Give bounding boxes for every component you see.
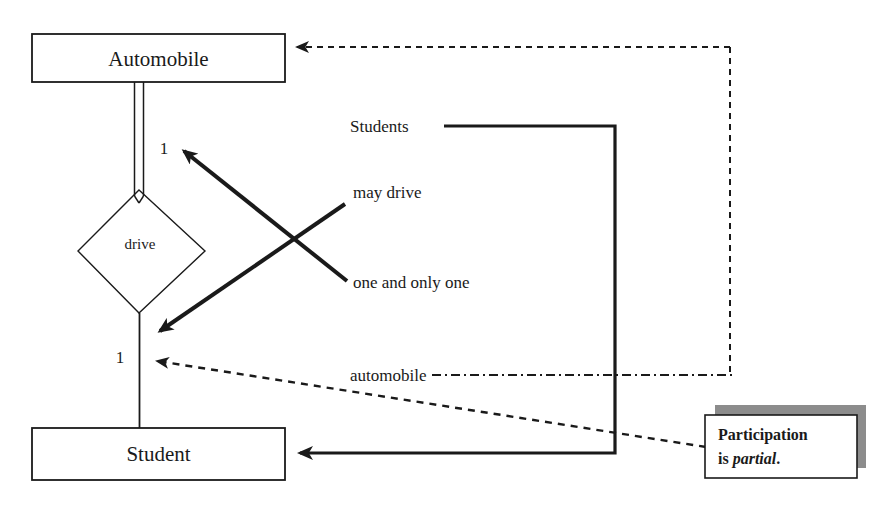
annotation-automobile-label: automobile bbox=[350, 366, 426, 385]
callout-line2-suffix: . bbox=[776, 450, 780, 467]
connector-automobile-drive bbox=[135, 82, 144, 203]
annotation-one-and-only-one-label: one and only one bbox=[353, 273, 470, 292]
callout-participation-line2: is partial. bbox=[718, 450, 780, 468]
callout-line2-prefix: is bbox=[718, 450, 733, 467]
relationship-drive[interactable]: drive bbox=[78, 190, 205, 313]
entity-student-label: Student bbox=[126, 442, 190, 466]
callout-participation-line1: Participation bbox=[718, 426, 808, 444]
er-diagram-canvas: Automobile Student drive 1 1 bbox=[0, 0, 888, 510]
annotation-may-drive-label: may drive bbox=[353, 183, 421, 202]
diagram-svg: Automobile Student drive 1 1 bbox=[0, 0, 888, 510]
cardinality-upper-label: 1 bbox=[160, 139, 169, 158]
callout-line2-emphasis: partial bbox=[731, 450, 777, 468]
cardinality-lower-label: 1 bbox=[116, 348, 125, 367]
relationship-drive-label: drive bbox=[125, 236, 156, 252]
entity-student[interactable]: Student bbox=[32, 428, 285, 480]
callout-line-one-and-only-one bbox=[184, 151, 347, 281]
entity-automobile-label: Automobile bbox=[108, 47, 208, 71]
annotation-students-label: Students bbox=[350, 117, 409, 136]
callout-line-automobile-entity bbox=[297, 47, 730, 375]
entity-automobile[interactable]: Automobile bbox=[32, 34, 285, 82]
callout-participation[interactable]: Participation is partial. bbox=[705, 405, 866, 478]
callout-participation-box bbox=[705, 415, 857, 478]
